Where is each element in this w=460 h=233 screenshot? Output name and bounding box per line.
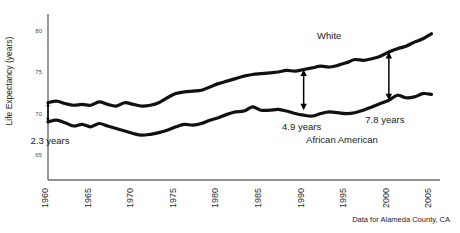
gap-arrow-head-down bbox=[300, 104, 306, 110]
life-expectancy-chart: 65707580 1960196519701975198019851990199… bbox=[0, 0, 460, 233]
y-tick-label: 75 bbox=[35, 69, 42, 75]
y-tick-label: 80 bbox=[35, 28, 42, 34]
gap-annotation-gap-1990: 4.9 years bbox=[282, 70, 321, 133]
chart-canvas: 65707580 1960196519701975198019851990199… bbox=[0, 0, 460, 233]
african-american-series-label: African American bbox=[306, 134, 378, 145]
gap-label-gap-1990: 4.9 years bbox=[282, 121, 321, 132]
x-tick-label: 1985 bbox=[253, 188, 263, 208]
white-series-label: White bbox=[317, 30, 341, 41]
plot-axes bbox=[48, 14, 440, 180]
x-tick-label: 2005 bbox=[423, 188, 433, 208]
gap-annotation-gap-2000: 7.8 years bbox=[365, 52, 404, 125]
x-tick-label: 1995 bbox=[338, 188, 348, 208]
y-tick-label: 65 bbox=[35, 152, 42, 158]
x-tick-label: 1965 bbox=[83, 188, 93, 208]
x-tick-label: 2000 bbox=[381, 188, 391, 208]
x-tick-label: 1960 bbox=[40, 188, 50, 208]
gap-label-gap-2000: 7.8 years bbox=[365, 114, 404, 125]
x-tick-label: 1980 bbox=[210, 188, 220, 208]
gap-annotations-group: 2.3 years4.9 years7.8 years bbox=[30, 52, 404, 146]
x-tick-label: 1975 bbox=[168, 188, 178, 208]
source-note: Data for Alameda County, CA bbox=[352, 215, 450, 224]
series-line-white bbox=[48, 34, 431, 106]
x-tick-label: 1970 bbox=[125, 188, 135, 208]
y-tick-label: 70 bbox=[35, 111, 42, 117]
y-axis-title: Life Expectancy (years) bbox=[4, 36, 14, 125]
x-tick-label: 1990 bbox=[296, 188, 306, 208]
x-axis-tick-labels: 1960196519701975198019851990199520002005 bbox=[40, 188, 433, 208]
gap-label-gap-1960: 2.3 years bbox=[30, 135, 69, 146]
gap-annotation-gap-1960: 2.3 years bbox=[30, 103, 69, 146]
